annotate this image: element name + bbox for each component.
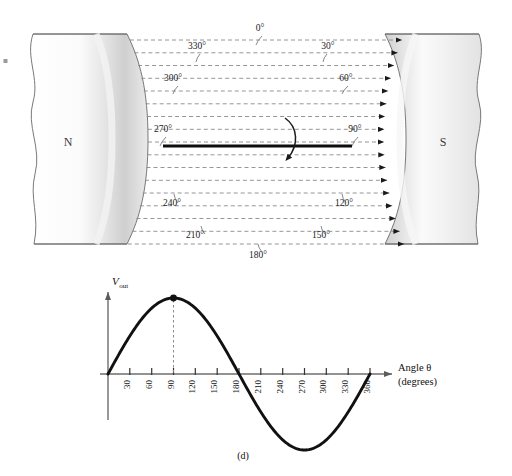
crop-artifact-mark [4, 59, 8, 63]
rotation-arrow-curve [285, 118, 296, 158]
magnetic-generator-figure: N S 0°330°30°300°60°270°90°240°120°210°1… [0, 0, 512, 476]
angle-label: 60° [339, 73, 353, 83]
x-axis-label-line1: Angle θ [398, 362, 431, 373]
x-tick-label: 240 [275, 380, 285, 394]
angle-label: 300° [164, 73, 182, 83]
north-pole-label: N [64, 135, 73, 149]
x-tick-label: 30 [122, 380, 132, 390]
angle-label-leader [342, 86, 348, 94]
angle-label: 30° [321, 41, 335, 51]
south-pole-label: S [440, 135, 447, 149]
x-tick-label: 330 [340, 380, 350, 394]
y-axis-label: Vout [112, 275, 128, 290]
x-axis-label-line2: (degrees) [398, 376, 438, 388]
angle-label: 150° [312, 230, 330, 240]
x-tick-label: 150 [209, 380, 219, 394]
angle-label: 180° [249, 250, 267, 260]
angle-label-leader [256, 36, 262, 45]
north-pole-body [31, 34, 148, 244]
figure-canvas: N S 0°330°30°300°60°270°90°240°120°210°1… [0, 0, 512, 476]
x-tick-label: 300 [318, 380, 328, 394]
angle-label: 240° [163, 198, 181, 208]
y-axis-label-subscript: out [119, 282, 128, 290]
angle-label-leader [352, 137, 358, 146]
figure-caption: (d) [237, 450, 249, 462]
magnetic-field-lines [128, 40, 404, 244]
x-tick-label: 60 [144, 380, 154, 390]
angle-label-leader [196, 54, 200, 62]
peak-marker-dot [170, 295, 177, 302]
south-pole-magnet: S [385, 34, 481, 244]
rotation-direction-arrow [285, 118, 296, 158]
angle-label: 210° [186, 230, 204, 240]
angle-label: 90° [348, 124, 362, 134]
x-tick-label: 210 [253, 380, 263, 394]
x-tick-label: 180 [231, 380, 241, 394]
angle-label-leader [323, 54, 327, 62]
x-tick-label: 120 [187, 380, 197, 394]
angle-label-group: 0°330°30°300°60°270°90°240°120°210°150°1… [154, 23, 362, 260]
x-tick-label: 90 [166, 380, 176, 390]
angle-label: 330° [188, 41, 206, 51]
output-voltage-chart: Vout Angle θ (degrees) 30609012015018021… [100, 275, 438, 462]
angle-label-leader [173, 86, 178, 94]
angle-label: 0° [256, 23, 265, 33]
north-pole-magnet: N [31, 34, 148, 244]
angle-label: 270° [154, 124, 172, 134]
x-tick-label: 270 [297, 380, 307, 394]
